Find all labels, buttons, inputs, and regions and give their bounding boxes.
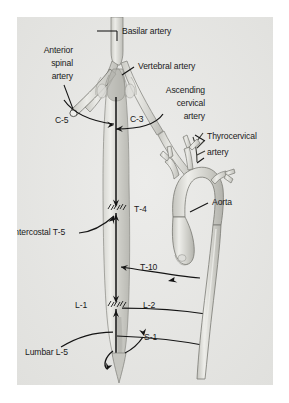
- figure-root: Basilar artery Anterior spinal artery Ve…: [0, 0, 289, 403]
- label-vertebral-artery: Vertebral artery: [138, 61, 195, 71]
- label-c3: C‑3: [130, 114, 144, 124]
- label-ascending-cervical-artery-line2: cervical: [135, 98, 205, 108]
- label-anterior-spinal-artery-line2: spinal: [17, 58, 73, 68]
- label-ascending-cervical-artery-line1: Ascending: [135, 85, 205, 95]
- label-intercostal-t5: Intercostal T‑5: [17, 227, 65, 237]
- label-aorta: Aorta: [212, 197, 232, 207]
- label-basilar-artery: Basilar artery: [122, 26, 171, 36]
- label-l1: L‑1: [75, 300, 87, 310]
- label-anterior-spinal-artery-line1: Anterior: [17, 45, 73, 55]
- label-t10: T‑10: [140, 262, 157, 272]
- label-l2: L‑2: [143, 300, 155, 310]
- anterior-spinal-artery-lumen: [70, 110, 77, 117]
- label-lumbar-l5: Lumbar L‑5: [25, 347, 68, 357]
- label-ascending-cervical-artery-line3: artery: [135, 111, 205, 121]
- label-thyrocervical-artery-line1: Thyrocervical: [207, 131, 257, 141]
- label-anterior-spinal-artery-line3: artery: [17, 71, 73, 81]
- label-thyrocervical-artery-line2: artery: [207, 147, 228, 157]
- label-t4: T‑4: [134, 204, 147, 214]
- label-s1: S‑1: [144, 332, 157, 342]
- label-c5: C‑5: [55, 115, 69, 125]
- anatomical-illustration-plate: Basilar artery Anterior spinal artery Ve…: [17, 17, 273, 385]
